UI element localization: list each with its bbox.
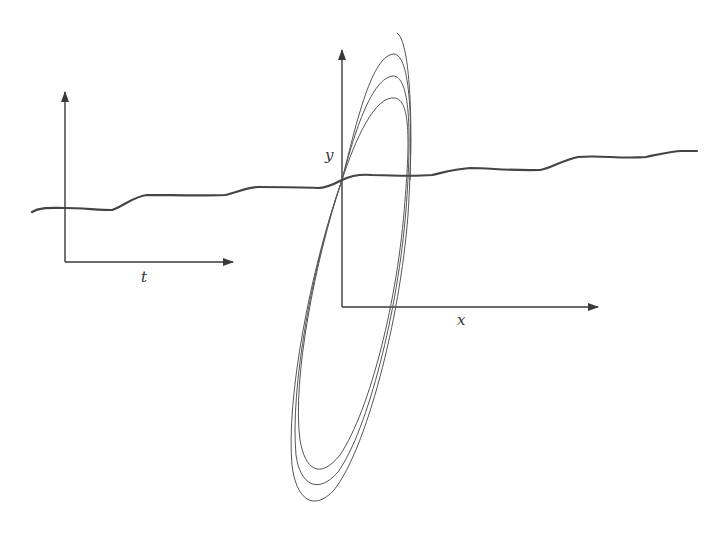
- diagram-canvas: [0, 0, 722, 548]
- t-axis-label: t: [141, 268, 147, 286]
- x-axis-label: x: [457, 311, 465, 329]
- loop-inner: [298, 98, 408, 469]
- time-series-axes: [65, 92, 233, 262]
- phase-loops: [291, 33, 411, 501]
- loop-outer: [291, 54, 411, 501]
- y-axis-label: y: [325, 146, 333, 164]
- loop-middle: [295, 76, 409, 485]
- signal-trace: [32, 151, 697, 212]
- phase-plot-axes: [342, 50, 598, 307]
